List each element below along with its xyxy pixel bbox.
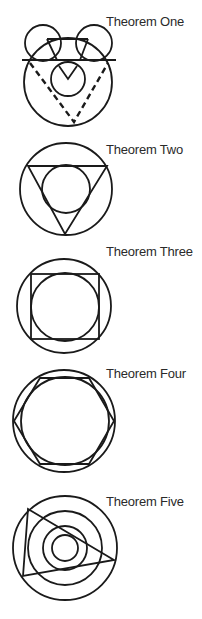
theorem-two-outer-circle bbox=[20, 143, 112, 235]
theorem-one-label: Theorem One bbox=[106, 15, 184, 28]
theorem-two-inner-circle bbox=[42, 165, 90, 213]
theorem-diagrams-canvas bbox=[0, 0, 202, 619]
theorem-two-label: Theorem Two bbox=[106, 143, 183, 156]
theorem-four-figure bbox=[13, 370, 115, 472]
theorem-five-figure bbox=[13, 496, 117, 600]
theorem-four-outer-circle bbox=[13, 370, 115, 472]
theorem-four-inner-circle bbox=[21, 377, 109, 465]
theorem-five-label: Theorem Five bbox=[106, 495, 184, 508]
theorem-five-triangle bbox=[23, 509, 114, 576]
theorem-three-figure bbox=[17, 259, 111, 353]
theorem-four-hexagon bbox=[14, 378, 114, 464]
theorem-three-inner-circle bbox=[31, 273, 99, 341]
theorem-four-label: Theorem Four bbox=[106, 367, 186, 380]
theorem-one-dashed-v bbox=[30, 63, 108, 122]
theorem-five-circle-3 bbox=[43, 526, 87, 570]
theorem-one-inner-v bbox=[59, 66, 77, 79]
theorem-two-figure bbox=[20, 143, 112, 235]
theorem-three-label: Theorem Three bbox=[106, 245, 193, 258]
theorem-one-figure bbox=[22, 25, 116, 126]
theorem-five-circle-4 bbox=[52, 535, 78, 561]
